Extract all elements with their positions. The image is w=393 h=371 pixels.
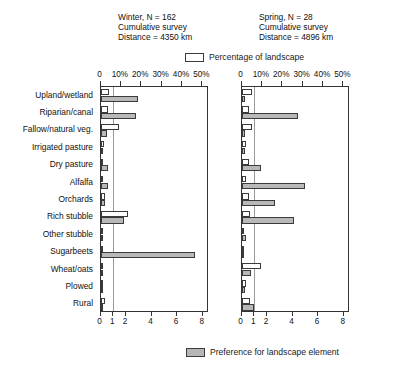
spring-title-line3: Distance = 4896 km (259, 32, 333, 42)
bottom-axis-tick (125, 311, 126, 316)
bar-group (101, 226, 207, 243)
bar-percentage-of-landscape (101, 263, 103, 269)
bar-group (242, 278, 348, 295)
bar-percentage-of-landscape (242, 159, 249, 165)
category-label: Alfalfa (0, 173, 96, 190)
bar-preference-for-landscape-element (242, 287, 246, 293)
top-axis-spring: 010%20%30%40%50% (241, 81, 347, 86)
bar-percentage-of-landscape (101, 141, 105, 147)
legend-bottom-label: Preference for landscape element (210, 347, 339, 357)
bar-percentage-of-landscape (242, 280, 246, 286)
top-axis-tick-label: 10% (112, 70, 128, 79)
bar-percentage-of-landscape (242, 124, 252, 130)
bar-group (242, 139, 348, 156)
bar-preference-for-landscape-element (101, 96, 138, 102)
bar-percentage-of-landscape (242, 106, 250, 112)
bar-group (101, 174, 207, 191)
shaded-rectangle-swatch-icon (186, 348, 205, 357)
bar-group (101, 87, 207, 104)
bottom-axis-tick-label: 4 (289, 317, 294, 326)
bar-group (101, 244, 207, 261)
bar-preference-for-landscape-element (242, 252, 244, 258)
bottom-axis-tick-label: 1 (110, 317, 115, 326)
bar-preference-for-landscape-element (242, 165, 262, 171)
top-axis-tick-label: 50% (334, 70, 350, 79)
category-label: Sugarbeets (0, 243, 96, 260)
category-label: Rural (0, 295, 96, 312)
category-label: Irrigated pasture (0, 138, 96, 155)
category-label: Orchards (0, 190, 96, 207)
bar-group (242, 261, 348, 278)
bar-percentage-of-landscape (101, 176, 103, 182)
bar-group (242, 209, 348, 226)
top-axis-tick (342, 81, 343, 86)
bar-preference-for-landscape-element (101, 130, 107, 136)
bar-percentage-of-landscape (242, 246, 244, 252)
legend-percentage-of-landscape: Percentage of landscape (185, 52, 304, 62)
top-axis-tick (302, 81, 303, 86)
category-label: Wheat/oats (0, 260, 96, 277)
top-axis-tick (281, 81, 282, 86)
bar-percentage-of-landscape (101, 89, 109, 95)
bar-percentage-of-landscape (242, 141, 246, 147)
winter-title-line3: Distance = 4350 km (118, 32, 192, 42)
category-label: Rich stubble (0, 208, 96, 225)
bar-preference-for-landscape-element (101, 148, 103, 154)
bar-percentage-of-landscape (242, 228, 244, 234)
bar-percentage-of-landscape (242, 263, 261, 269)
winter-title-line1: Winter, N = 162 (118, 12, 192, 22)
bar-group (242, 104, 348, 121)
bar-group (101, 104, 207, 121)
plot-panel-winter (100, 86, 208, 312)
category-label: Other stubble (0, 225, 96, 242)
bottom-axis-tick-label: 1 (251, 317, 256, 326)
bar-percentage-of-landscape (101, 106, 109, 112)
bar-preference-for-landscape-element (101, 183, 108, 189)
bar-preference-for-landscape-element (242, 96, 245, 102)
top-axis-tick-label: 50% (193, 70, 209, 79)
bottom-axis-winter: 012468 (100, 311, 206, 316)
bottom-axis-tick (100, 311, 101, 316)
category-label: Dry pasture (0, 156, 96, 173)
bar-group (101, 139, 207, 156)
bar-group (242, 244, 348, 261)
bar-preference-for-landscape-element (101, 270, 103, 276)
top-axis-tick (140, 81, 141, 86)
bar-percentage-of-landscape (242, 89, 252, 95)
bar-preference-for-landscape-element (101, 165, 108, 171)
top-axis-tick-label: 20% (132, 70, 148, 79)
bar-preference-for-landscape-element (242, 183, 305, 189)
bottom-axis-tick (151, 311, 152, 316)
bar-group (101, 209, 207, 226)
top-axis-tick-label: 0 (97, 70, 102, 79)
bar-percentage-of-landscape (101, 211, 129, 217)
bar-percentage-of-landscape (101, 228, 103, 234)
bottom-axis-tick-label: 8 (199, 317, 204, 326)
top-axis-tick-label: 20% (273, 70, 289, 79)
top-axis-tick (201, 81, 202, 86)
bar-preference-for-landscape-element (242, 270, 252, 276)
category-label: Upland/wetland (0, 86, 96, 103)
bar-preference-for-landscape-element (242, 148, 245, 154)
top-axis-winter: 010%20%30%40%50% (100, 81, 206, 86)
bar-preference-for-landscape-element (101, 235, 103, 241)
bottom-axis-tick (292, 311, 293, 316)
spring-title-line1: Spring, N = 28 (259, 12, 333, 22)
top-axis-tick-label: 40% (314, 70, 330, 79)
top-axis-tick (161, 81, 162, 86)
bar-percentage-of-landscape (242, 211, 250, 217)
panel-title-spring: Spring, N = 28 Cumulative survey Distanc… (259, 12, 333, 43)
plot-area-spring (242, 87, 348, 311)
bar-preference-for-landscape-element (242, 235, 246, 241)
open-rectangle-swatch-icon (185, 53, 204, 62)
bar-group (242, 191, 348, 208)
bottom-axis-tick (343, 311, 344, 316)
bar-group (242, 122, 348, 139)
bar-group (242, 87, 348, 104)
bottom-axis-tick-label: 4 (148, 317, 153, 326)
bottom-axis-tick-label: 8 (340, 317, 345, 326)
bar-preference-for-landscape-element (101, 304, 103, 310)
legend-preference-for-landscape-element: Preference for landscape element (186, 347, 339, 357)
bottom-axis-tick-label: 2 (123, 317, 128, 326)
bar-percentage-of-landscape (101, 298, 105, 304)
